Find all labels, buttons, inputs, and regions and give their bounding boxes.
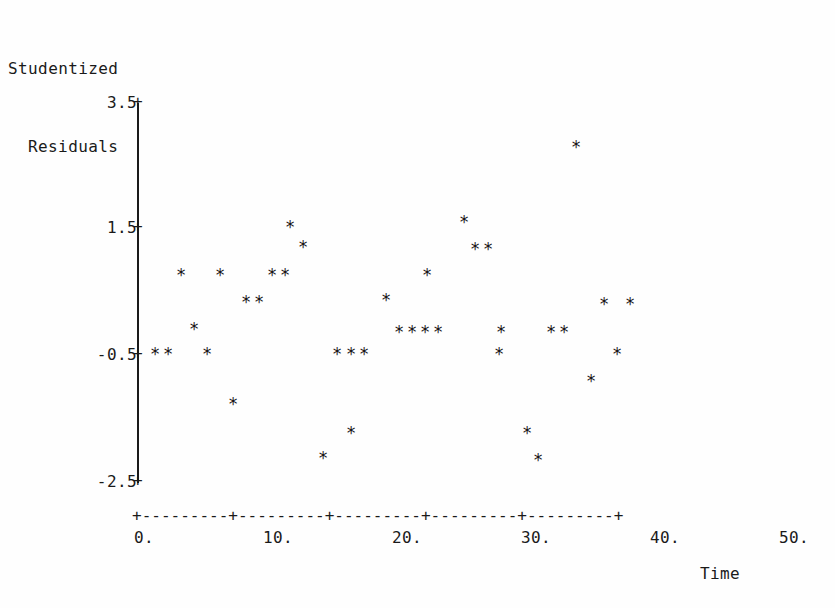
x-tick-label-50: 50. [779,530,809,546]
y-tick-marker: + [133,94,143,110]
y-tick-marker: + [133,346,143,362]
data-point: * [345,425,358,442]
data-point: * [214,267,227,284]
x-tick-label-20: 20. [392,530,422,546]
data-point: * [611,346,624,363]
data-point: * [227,396,240,413]
data-point: * [279,267,292,284]
data-point: * [284,219,297,236]
x-axis-line: +---------+---------+---------+---------… [132,508,623,524]
y-tick--2-5: -2.5+ [0,474,137,490]
x-tick-label-0: 0. [134,530,154,546]
data-point: * [345,346,358,363]
data-point: * [358,346,371,363]
data-point: * [521,425,534,442]
y-tick-label: -0.5 [17,347,137,363]
data-point: * [175,267,188,284]
y-tick-1-5: 1.5+ [0,220,137,236]
data-point: * [253,294,266,311]
data-point: * [493,346,506,363]
data-point: * [421,267,434,284]
y-tick-label: -2.5 [17,474,137,490]
data-point: * [558,324,571,341]
data-point: * [201,346,214,363]
data-point: * [297,239,310,256]
y-tick-marker: + [133,219,143,235]
data-point: * [532,452,545,469]
data-point: * [393,324,406,341]
data-point: * [482,241,495,258]
data-point: * [419,324,432,341]
data-point: * [432,324,445,341]
data-point: * [331,346,344,363]
data-point: * [495,324,508,341]
data-point: * [624,296,637,313]
data-point: * [317,450,330,467]
title-line-1: Studentized [8,56,118,82]
x-tick-label-30: 30. [521,530,551,546]
data-point: * [598,296,611,313]
data-point: * [188,321,201,338]
data-point: * [585,373,598,390]
data-point: * [162,346,175,363]
y-tick-3-5: 3.5+ [0,95,137,111]
y-tick--0-5: -0.5+ [0,347,137,363]
data-point: * [469,241,482,258]
x-tick-label-40: 40. [650,530,680,546]
title-line-2: Residuals [28,134,118,160]
data-point: * [149,346,162,363]
y-tick-marker: + [133,473,143,489]
data-point: * [240,294,253,311]
y-axis-line [137,103,139,483]
data-point: * [458,214,471,231]
y-tick-label: 1.5 [17,220,137,236]
data-point: * [406,324,419,341]
data-point: * [570,139,583,156]
chart-canvas: Studentized Residuals 3.5+1.5+-0.5+-2.5+… [0,0,835,608]
data-point: * [545,324,558,341]
y-tick-label: 3.5 [17,95,137,111]
x-axis-title: Time [700,566,740,582]
x-tick-label-10: 10. [263,530,293,546]
data-point: * [380,292,393,309]
data-point: * [266,267,279,284]
